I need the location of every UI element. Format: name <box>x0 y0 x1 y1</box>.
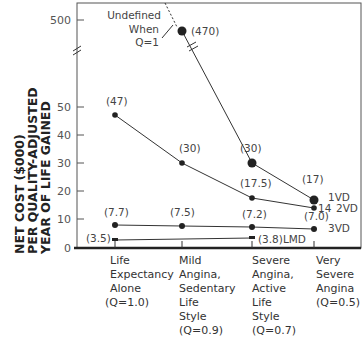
svg-text:Style: Style <box>179 310 207 323</box>
svg-text:Life: Life <box>110 254 130 267</box>
svg-text:Active: Active <box>252 282 286 295</box>
svg-text:Mild: Mild <box>179 254 202 267</box>
svg-text:Life: Life <box>179 296 199 309</box>
y-tick-50: 50 <box>57 101 71 114</box>
legend-2vd: 2VD <box>336 202 358 214</box>
svg-text:Severe: Severe <box>252 254 290 267</box>
x-category-very-severe-angina: Very Severe Angina (Q=0.5) <box>316 254 360 309</box>
svg-text:Life: Life <box>252 296 272 309</box>
svg-text:(30): (30) <box>240 142 262 154</box>
y-tick-40: 40 <box>57 129 71 142</box>
svg-text:Expectancy: Expectancy <box>110 268 174 281</box>
series-1vd: (470) (30) (17) 1VD <box>165 3 350 205</box>
svg-text:Very: Very <box>316 254 341 267</box>
undefined-annotation: Undefined When Q=1 <box>107 9 173 48</box>
y-axis-label: NET COST ($000) PER QUALITY-ADJUSTED YEA… <box>12 87 53 255</box>
svg-text:Sedentary: Sedentary <box>179 282 236 295</box>
x-category-life-expectancy: Life Expectancy Alone (Q=1.0) <box>105 254 174 309</box>
y-tick-20: 20 <box>57 185 71 198</box>
cost-effectiveness-chart: 500 50 40 30 20 10 0 NET COST ($000) PER… <box>0 0 363 338</box>
svg-text:(Q=1.0): (Q=1.0) <box>105 296 149 309</box>
svg-text:(17.5): (17.5) <box>240 177 272 189</box>
series-2vd: (47) (30) (17.5) 14 2VD <box>106 95 358 214</box>
svg-text:(Q=0.5): (Q=0.5) <box>316 296 360 309</box>
svg-text:(470): (470) <box>191 25 219 37</box>
x-category-severe-angina: Severe Angina, Active Life Style (Q=0.7) <box>252 254 296 337</box>
y-tick-0: 0 <box>64 242 71 255</box>
svg-text:Alone: Alone <box>110 282 141 295</box>
svg-text:When: When <box>129 23 159 35</box>
svg-text:(3.8)LMD: (3.8)LMD <box>258 233 306 245</box>
point-1vd-mild <box>178 27 187 36</box>
svg-text:Angina,: Angina, <box>252 268 294 281</box>
svg-text:(Q=0.7): (Q=0.7) <box>252 324 296 337</box>
svg-text:(17): (17) <box>302 173 324 185</box>
undefined-dashed-line <box>165 3 177 27</box>
svg-text:YEAR OF LIFE GAINED: YEAR OF LIFE GAINED <box>38 101 53 255</box>
svg-text:(7.2): (7.2) <box>242 208 267 220</box>
series-3vd: (7.7) (7.5) (7.2) (7.0) 3VD <box>104 206 350 234</box>
svg-text:Undefined: Undefined <box>107 9 161 21</box>
svg-text:Q=1: Q=1 <box>135 36 159 48</box>
svg-text:(Q=0.9): (Q=0.9) <box>179 324 223 337</box>
x-category-mild-angina: Mild Angina, Sedentary Life Style (Q=0.9… <box>179 254 236 337</box>
svg-text:(7.7): (7.7) <box>104 206 129 218</box>
series-lmd: (3.5) (3.8)LMD <box>86 232 306 245</box>
y-tick-30: 30 <box>57 157 71 170</box>
svg-text:(7.5): (7.5) <box>170 206 195 218</box>
y-tick-10: 10 <box>57 213 71 226</box>
legend-3vd: 3VD <box>328 222 350 234</box>
svg-text:Angina: Angina <box>316 282 354 295</box>
point-1vd-severe <box>248 159 257 168</box>
svg-text:Severe: Severe <box>316 268 354 281</box>
y-tick-500: 500 <box>50 14 71 27</box>
svg-text:(47): (47) <box>106 95 128 107</box>
svg-text:(7.0): (7.0) <box>304 210 329 222</box>
svg-text:(3.5): (3.5) <box>86 232 111 244</box>
svg-text:Style: Style <box>252 310 280 323</box>
svg-text:(30): (30) <box>179 142 201 154</box>
svg-text:Angina,: Angina, <box>179 268 221 281</box>
